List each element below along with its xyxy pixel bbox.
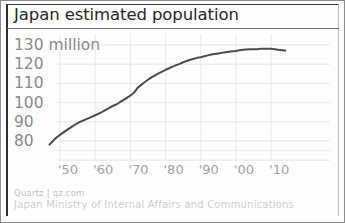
data-series-group <box>49 49 285 145</box>
data-series-line <box>49 49 285 145</box>
y-axis-tick-label: 120 <box>14 55 44 73</box>
chart-figure: Japan estimated population 130 million12… <box>0 0 345 223</box>
source-credit-quartz: Quartz | qz.com <box>14 188 85 198</box>
y-axis-tick-label: 100 <box>14 94 44 112</box>
x-axis-tick-label: '70 <box>128 162 148 177</box>
y-axis-labels-group: 130 million1201101009080 <box>14 36 100 150</box>
x-axis-tick-label: '80 <box>164 162 184 177</box>
y-axis-tick-label: 130 million <box>14 36 100 54</box>
y-axis-tick-label: 90 <box>14 113 34 131</box>
x-axis-labels-group: '50'60'70'80'90'00'10 <box>58 162 289 177</box>
source-credit-ministry: Japan Ministry of Internal Affairs and C… <box>14 199 294 210</box>
y-axis-tick-label: 110 <box>14 74 44 92</box>
x-axis-tick-label: '10 <box>269 162 289 177</box>
x-axis-tick-label: '50 <box>58 162 78 177</box>
x-axis-tick-label: '00 <box>234 162 254 177</box>
x-axis-tick-label: '60 <box>93 162 113 177</box>
y-axis-tick-label: 80 <box>14 132 34 150</box>
x-axis-tick-label: '90 <box>199 162 219 177</box>
